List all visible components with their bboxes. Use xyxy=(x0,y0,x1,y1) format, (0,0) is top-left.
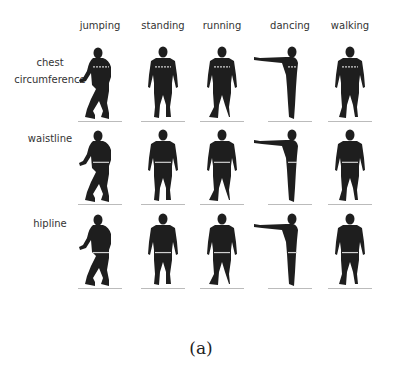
ground-line xyxy=(200,204,244,205)
ground-line xyxy=(141,288,185,289)
row-label-hip: hipline xyxy=(33,215,67,232)
dance-silhouette-chest xyxy=(250,45,320,123)
squat-silhouette-hip xyxy=(65,212,135,290)
run-silhouette-hip xyxy=(187,212,257,290)
run-silhouette-waist xyxy=(187,128,257,206)
dance-silhouette-hip xyxy=(250,212,320,290)
column-label-dancing: dancing xyxy=(270,20,310,31)
ground-line xyxy=(78,121,122,122)
ground-line xyxy=(328,204,372,205)
ground-line xyxy=(78,288,122,289)
ground-line xyxy=(200,288,244,289)
ground-line xyxy=(78,204,122,205)
figure-caption: (a) xyxy=(189,338,212,358)
column-label-jumping: jumping xyxy=(80,20,121,31)
ground-line xyxy=(328,121,372,122)
column-label-walking: walking xyxy=(331,20,369,31)
run-silhouette-chest xyxy=(187,45,257,123)
ground-line xyxy=(328,288,372,289)
ground-line xyxy=(141,121,185,122)
squat-silhouette-chest xyxy=(65,45,135,123)
ground-line xyxy=(268,204,312,205)
ground-line xyxy=(141,204,185,205)
squat-silhouette-waist xyxy=(65,128,135,206)
column-label-running: running xyxy=(203,20,242,31)
ground-line xyxy=(268,121,312,122)
ground-line xyxy=(200,121,244,122)
walk-silhouette-hip xyxy=(315,212,385,290)
walk-silhouette-waist xyxy=(315,128,385,206)
ground-line xyxy=(268,288,312,289)
dance-silhouette-waist xyxy=(250,128,320,206)
column-label-standing: standing xyxy=(141,20,184,31)
walk-silhouette-chest xyxy=(315,45,385,123)
